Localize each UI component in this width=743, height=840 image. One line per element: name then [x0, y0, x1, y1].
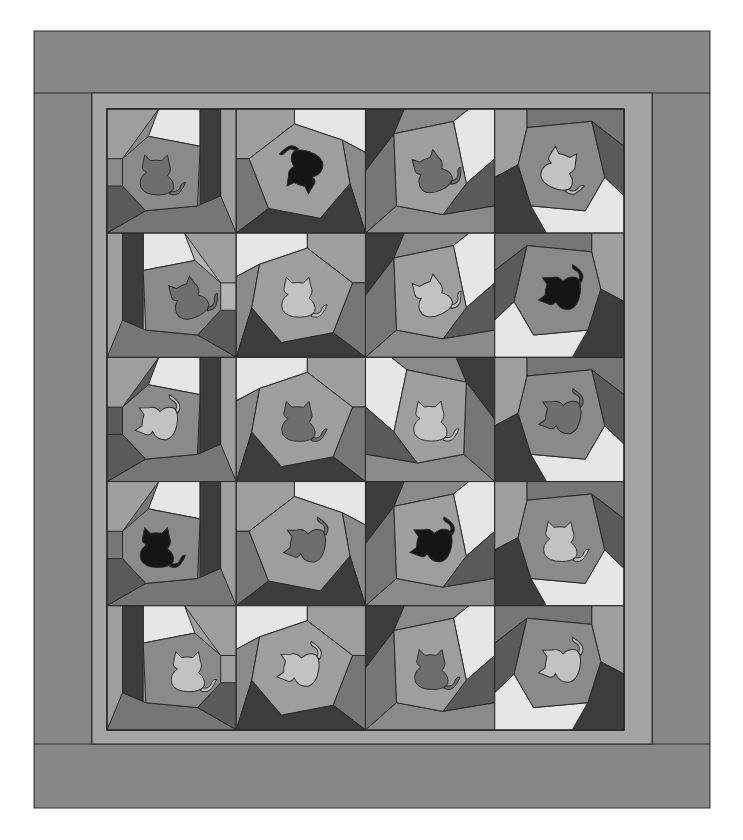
quilt-block	[107, 357, 236, 481]
quilt-block	[495, 233, 624, 357]
quilt-block	[495, 357, 624, 481]
fabric-patch	[200, 482, 221, 579]
fabric-patch	[123, 233, 144, 330]
quilt-block	[366, 482, 495, 606]
quilt-block	[236, 109, 365, 233]
quilt-block	[236, 357, 365, 481]
fabric-patch	[123, 606, 144, 703]
quilt-block	[495, 482, 624, 606]
quilt-block	[236, 482, 365, 606]
quilt-block	[107, 482, 236, 606]
quilt-block	[107, 606, 236, 730]
quilt-block	[366, 357, 495, 481]
quilt-block	[366, 233, 495, 357]
quilt-block	[495, 606, 624, 730]
quilt-block	[236, 233, 365, 357]
quilt-blocks-grid	[107, 109, 624, 730]
quilt-block	[107, 233, 236, 357]
quilt-illustration	[0, 0, 743, 840]
quilt-block	[495, 109, 624, 233]
quilt-block	[366, 109, 495, 233]
quilt-block	[107, 109, 236, 233]
quilt-block	[366, 606, 495, 730]
fabric-patch	[200, 109, 221, 206]
quilt-block	[236, 606, 365, 730]
fabric-patch	[200, 357, 221, 454]
